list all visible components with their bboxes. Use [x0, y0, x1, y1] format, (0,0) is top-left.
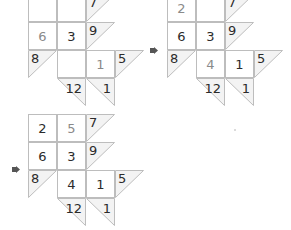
cell-r2c2: 3: [196, 22, 225, 50]
clue-value: 5: [118, 52, 126, 65]
stray-dot: [234, 129, 236, 131]
clue-value: 12: [204, 82, 221, 95]
cell-value: 1: [87, 178, 114, 191]
clue-value: 9: [228, 24, 236, 37]
clue-value: 1: [103, 82, 111, 95]
arrow-right-icon: [12, 166, 20, 173]
cell-r3c2: 1: [225, 50, 254, 78]
cell-r3c1: [57, 50, 86, 78]
cell-r1c1: 2: [28, 114, 57, 142]
clue-value: 7: [89, 116, 97, 129]
clue-value: 1: [242, 82, 250, 95]
cell-r1c2: [196, 0, 225, 22]
clue-triangle-r3c3: 5: [115, 50, 144, 78]
clue-triangle-r4c1: 12: [57, 78, 86, 106]
cell-value: 6: [29, 150, 56, 163]
clue-triangle-r4c1: 12: [196, 78, 225, 106]
cell-r3c2: 1: [86, 170, 115, 198]
cell-r2c1: 6: [28, 22, 57, 50]
clue-triangle-r4c2: 1: [225, 78, 254, 106]
clue-value: 12: [65, 202, 82, 215]
clue-triangle-r3c3: 5: [115, 170, 144, 198]
clue-triangle-r2c3: 9: [86, 22, 115, 50]
clue-value: 8: [31, 52, 39, 65]
cell-value: 3: [58, 150, 85, 163]
cell-r2c2: 3: [57, 22, 86, 50]
clue-triangle-r1c3: 7: [86, 114, 115, 142]
arrow-right-icon: [150, 47, 158, 54]
clue-triangle-r3c0: 8: [28, 170, 57, 198]
cell-r3c1: 4: [57, 170, 86, 198]
cell-r1c1: [28, 0, 57, 22]
cell-r3c1: 4: [196, 50, 225, 78]
cell-value: 3: [58, 30, 85, 43]
clue-triangle-r1c3: 7: [225, 0, 254, 22]
clue-value: 5: [257, 52, 265, 65]
clue-triangle-r3c0: 8: [28, 50, 57, 78]
clue-value: 5: [118, 172, 126, 185]
cell-value: 1: [226, 58, 253, 71]
clue-triangle-r4c1: 12: [57, 198, 86, 226]
clue-value: 8: [31, 172, 39, 185]
cell-r2c1: 6: [28, 142, 57, 170]
cell-r1c2: [57, 0, 86, 22]
clue-value: 1: [103, 202, 111, 215]
clue-triangle-r3c0: 8: [167, 50, 196, 78]
cell-value: 1: [87, 58, 114, 71]
cell-value: 2: [29, 122, 56, 135]
clue-triangle-r4c2: 1: [86, 198, 115, 226]
cell-r2c2: 3: [57, 142, 86, 170]
cell-value: 4: [58, 178, 85, 191]
cell-r1c1: 2: [167, 0, 196, 22]
cell-value: 2: [168, 2, 195, 15]
clue-triangle-r2c3: 9: [86, 142, 115, 170]
clue-triangle-r3c3: 5: [254, 50, 283, 78]
cell-r1c2: 5: [57, 114, 86, 142]
clue-value: 7: [228, 0, 236, 9]
cell-value: 3: [197, 30, 224, 43]
clue-value: 9: [89, 24, 97, 37]
clue-value: 8: [170, 52, 178, 65]
cell-value: 6: [29, 30, 56, 43]
cell-value: 6: [168, 30, 195, 43]
cell-value: 4: [197, 58, 224, 71]
cell-r3c2: 1: [86, 50, 115, 78]
clue-value: 12: [65, 82, 82, 95]
clue-triangle-r4c2: 1: [86, 78, 115, 106]
clue-triangle-r2c3: 9: [225, 22, 254, 50]
cell-r2c1: 6: [167, 22, 196, 50]
clue-triangle-r1c3: 7: [86, 0, 115, 22]
cell-value: 5: [58, 122, 85, 135]
clue-value: 9: [89, 144, 97, 157]
clue-value: 7: [89, 0, 97, 9]
